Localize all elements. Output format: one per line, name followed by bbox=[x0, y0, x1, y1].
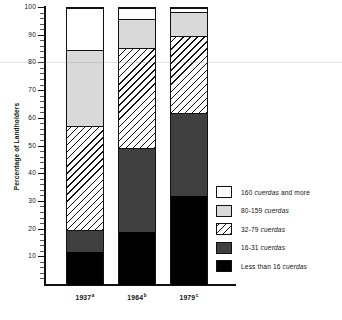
y-tick-minor bbox=[40, 245, 44, 246]
bar-segment[interactable] bbox=[67, 230, 103, 252]
legend-item[interactable]: Less than 16 cuerdas bbox=[216, 257, 340, 276]
bar-1979[interactable] bbox=[170, 7, 208, 284]
x-tick-label-1937: 1937a bbox=[55, 293, 115, 301]
y-tick-minor bbox=[40, 85, 44, 86]
y-tick-minor bbox=[40, 24, 44, 25]
x-tick-label-1979: 1979c bbox=[159, 293, 219, 301]
y-tick-minor bbox=[40, 134, 44, 135]
y-tick-minor bbox=[40, 101, 44, 102]
legend-item[interactable]: 160 cuerdas and more bbox=[216, 183, 340, 202]
legend-swatch-white bbox=[216, 186, 232, 198]
y-tick-label: 70 bbox=[14, 86, 36, 93]
y-tick-label: 60 bbox=[14, 114, 36, 121]
legend-swatch-hatched-diagonal bbox=[216, 223, 232, 235]
legend: 160 cuerdas and more80-159 cuerdas32-79 … bbox=[216, 183, 340, 276]
y-tick-minor bbox=[40, 46, 44, 47]
y-tick-minor bbox=[40, 129, 44, 130]
y-tick-minor bbox=[40, 218, 44, 219]
y-tick-label: 80 bbox=[14, 58, 36, 65]
y-tick-minor bbox=[40, 184, 44, 185]
y-tick-mark bbox=[38, 256, 44, 257]
y-tick-minor bbox=[40, 190, 44, 191]
y-tick-minor bbox=[40, 112, 44, 113]
y-tick-minor bbox=[40, 13, 44, 14]
y-tick-minor bbox=[40, 151, 44, 152]
y-tick-mark bbox=[38, 201, 44, 202]
y-tick-minor bbox=[40, 179, 44, 180]
bar-segment[interactable] bbox=[119, 48, 155, 148]
y-tick-minor bbox=[40, 107, 44, 108]
bar-segment[interactable] bbox=[67, 126, 103, 230]
y-tick-minor bbox=[40, 140, 44, 141]
y-tick-label: 90 bbox=[14, 31, 36, 38]
y-tick-minor bbox=[40, 79, 44, 80]
y-tick-minor bbox=[40, 278, 44, 279]
y-tick-minor bbox=[40, 29, 44, 30]
bar-segment[interactable] bbox=[171, 8, 207, 12]
bar-segment[interactable] bbox=[171, 196, 207, 285]
legend-label: 160 cuerdas and more bbox=[241, 189, 310, 196]
y-tick-label: 30 bbox=[14, 197, 36, 204]
y-tick-minor bbox=[40, 251, 44, 252]
bar-1937[interactable] bbox=[66, 7, 104, 284]
y-tick-label: 100 bbox=[14, 3, 36, 10]
bar-segment[interactable] bbox=[119, 232, 155, 285]
stacked-bar-chart: Percentage of Landholders 10090807060504… bbox=[0, 0, 342, 320]
y-tick-minor bbox=[40, 212, 44, 213]
y-tick-mark bbox=[38, 62, 44, 63]
y-tick-minor bbox=[40, 234, 44, 235]
bar-segment[interactable] bbox=[67, 50, 103, 126]
legend-label: 32-79 cuerdas bbox=[241, 226, 285, 233]
y-tick-mark bbox=[38, 35, 44, 36]
legend-label: 16-31 cuerdas bbox=[241, 244, 285, 251]
legend-swatch-dark-gray bbox=[216, 242, 232, 254]
y-tick-mark bbox=[38, 118, 44, 119]
y-tick-minor bbox=[40, 206, 44, 207]
legend-label: 80-159 cuerdas bbox=[241, 207, 289, 214]
legend-swatch-light-gray bbox=[216, 205, 232, 217]
y-tick-minor bbox=[40, 51, 44, 52]
bar-segment[interactable] bbox=[119, 8, 155, 19]
y-tick-mark bbox=[38, 7, 44, 8]
x-tick-label-1964: 1964b bbox=[107, 293, 167, 301]
y-tick-minor bbox=[40, 68, 44, 69]
y-tick-minor bbox=[40, 73, 44, 74]
y-tick-minor bbox=[40, 195, 44, 196]
legend-item[interactable]: 16-31 cuerdas bbox=[216, 239, 340, 258]
y-tick-minor bbox=[40, 262, 44, 263]
y-tick-minor bbox=[40, 40, 44, 41]
y-tick-label: 10 bbox=[14, 252, 36, 259]
y-tick-mark bbox=[38, 229, 44, 230]
legend-item[interactable]: 32-79 cuerdas bbox=[216, 220, 340, 239]
y-tick-minor bbox=[40, 267, 44, 268]
y-tick-minor bbox=[40, 162, 44, 163]
y-tick-minor bbox=[40, 273, 44, 274]
legend-item[interactable]: 80-159 cuerdas bbox=[216, 202, 340, 221]
y-tick-label: 40 bbox=[14, 169, 36, 176]
y-axis-line bbox=[44, 6, 46, 286]
legend-swatch-black bbox=[216, 260, 232, 272]
bar-segment[interactable] bbox=[119, 19, 155, 48]
y-tick-minor bbox=[40, 240, 44, 241]
y-tick-minor bbox=[40, 18, 44, 19]
y-tick-minor bbox=[40, 96, 44, 97]
y-tick-label: 50 bbox=[14, 142, 36, 149]
y-tick-label: 20 bbox=[14, 225, 36, 232]
y-tick-mark bbox=[38, 146, 44, 147]
y-tick-mark bbox=[38, 90, 44, 91]
bar-segment[interactable] bbox=[171, 36, 207, 114]
y-tick-minor bbox=[40, 57, 44, 58]
bar-segment[interactable] bbox=[119, 148, 155, 232]
bar-1964[interactable] bbox=[118, 7, 156, 284]
legend-label: Less than 16 cuerdas bbox=[241, 263, 307, 270]
y-tick-mark bbox=[38, 173, 44, 174]
bar-segment[interactable] bbox=[171, 12, 207, 36]
bar-segment[interactable] bbox=[67, 252, 103, 285]
bar-segment[interactable] bbox=[67, 8, 103, 50]
y-tick-minor bbox=[40, 168, 44, 169]
y-tick-minor bbox=[40, 223, 44, 224]
y-tick-minor bbox=[40, 157, 44, 158]
bar-segment[interactable] bbox=[171, 113, 207, 196]
y-tick-minor bbox=[40, 123, 44, 124]
